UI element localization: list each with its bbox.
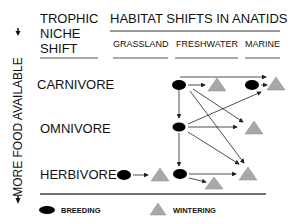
breeding-markers (117, 80, 259, 180)
habitat-shift-diagram (0, 0, 300, 224)
legend-wintering-label: WINTERING (173, 206, 216, 215)
shift-arrows (133, 77, 267, 182)
wintering-markers (151, 77, 285, 189)
legend-breeding-label: BREEDING (61, 206, 101, 215)
down-arrow-icon (16, 28, 21, 204)
wintering-legend-icon (150, 203, 166, 215)
breeding-legend-icon (39, 206, 55, 214)
